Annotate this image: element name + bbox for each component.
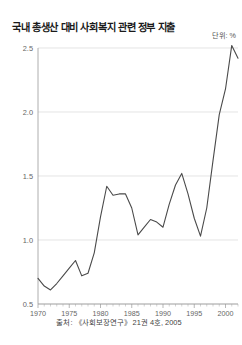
gridline-group: [38, 48, 238, 304]
y-tick-label: 1.0: [23, 236, 33, 245]
line-chart-plot: 0.51.01.52.02.5 197019751980198519901995…: [0, 0, 242, 345]
y-tick-label: 2.5: [23, 44, 33, 53]
y-tick-label: 2.0: [23, 108, 33, 117]
major-tick-group: [38, 304, 226, 308]
chart-source-label: 출처: 《사회보장연구》 21권 4호, 2005: [0, 316, 238, 327]
y-tick-label-group: 0.51.01.52.02.5: [23, 44, 33, 309]
y-tick-label: 1.5: [23, 172, 33, 181]
data-series-group: [38, 45, 238, 289]
y-tick-label: 0.5: [23, 300, 33, 309]
chart-figure: 국내 총생산 대비 사회복지 관련 정부 지출 단위: % 0.51.01.52…: [0, 0, 242, 345]
data-series-line: [38, 45, 238, 289]
